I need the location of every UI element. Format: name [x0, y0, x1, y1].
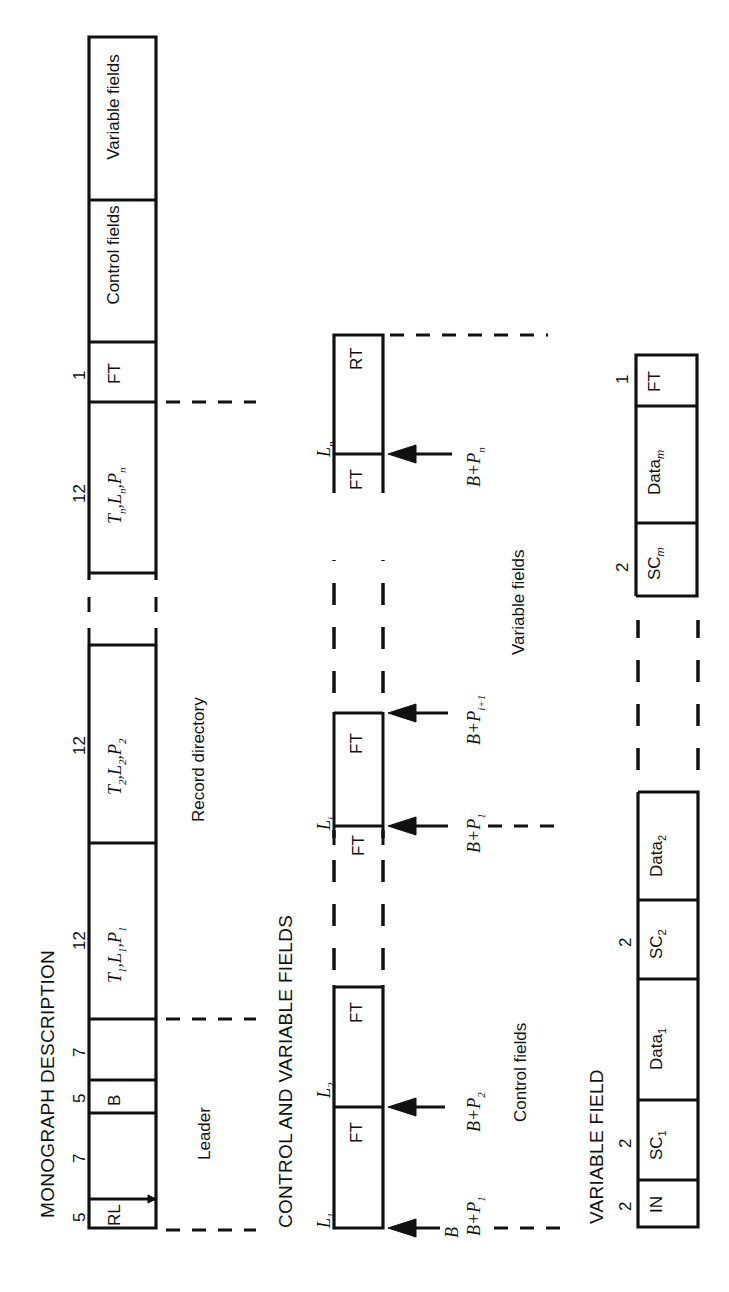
pointer-b-p2: B+P2	[465, 1092, 487, 1132]
pointer-b-p1-start: B+P1	[465, 1196, 487, 1236]
leader-label: Leader	[196, 1107, 213, 1160]
size-b: 5	[71, 1094, 88, 1103]
cell-rt: RT	[348, 348, 365, 370]
size-ft: 1	[71, 371, 88, 380]
arrow-bpn-icon	[388, 445, 416, 463]
arrow-bp2-icon	[388, 1098, 416, 1116]
pointer-b-p1: B+P1	[465, 813, 487, 853]
size-gap2: 7	[71, 1048, 88, 1057]
size-rl: 5	[71, 1213, 88, 1222]
segment-entryn: Tn,Ln,Pn	[106, 467, 128, 524]
pointer-b: B	[443, 1227, 461, 1238]
pointer-b-pn: B+Pn	[465, 447, 487, 487]
length-l2: L2	[315, 1082, 337, 1098]
size-sc2: 2	[617, 938, 634, 947]
segment-in: IN	[648, 1196, 665, 1213]
cell-ft-3: FT	[350, 835, 367, 856]
size-entryn: 12	[71, 484, 88, 503]
pointer-arrows	[388, 445, 452, 1237]
segment-ft: FT	[106, 363, 123, 384]
size-gap1: 7	[71, 1154, 88, 1163]
control-fields-label: Control fields	[512, 1023, 529, 1122]
cell-ft-1: FT	[348, 1122, 365, 1143]
segment-entry2: T2,L2,P2	[106, 738, 128, 795]
segment-variable-fields: Variable fields	[104, 52, 124, 162]
size-scm: 2	[614, 563, 631, 572]
segment-ft-end: FT	[646, 371, 663, 392]
segment-datam: Datam	[646, 450, 666, 495]
segment-b: B	[106, 1095, 123, 1106]
segment-rl: RL	[106, 1204, 123, 1226]
size-entry2: 12	[71, 736, 88, 755]
size-ft-end: 1	[614, 375, 631, 384]
variable-fields-label: Variable fields	[510, 549, 527, 655]
segment-data1: Data1	[648, 1028, 668, 1070]
arrow-b-icon	[388, 1219, 416, 1237]
segment-control-fields: Control fields	[104, 200, 124, 310]
control-variable-title: CONTROL AND VARIABLE FIELDS	[276, 915, 295, 1228]
monograph-title: MONOGRAPH DESCRIPTION	[38, 950, 57, 1218]
length-l1: L1	[315, 1212, 337, 1228]
cell-ft-5: FT	[348, 469, 365, 490]
variable-field-title: VARIABLE FIELD	[587, 1069, 606, 1224]
segment-scm: SCm	[646, 547, 666, 580]
size-sc1: 2	[617, 1139, 634, 1148]
length-li: Li	[315, 817, 337, 830]
cell-ft-4: FT	[348, 733, 365, 754]
arrow-bp1-icon	[388, 817, 416, 835]
length-ln: Ln	[315, 441, 337, 457]
segment-sc1: SC1	[648, 1130, 668, 1160]
segment-entry1: T1,L1,P1	[106, 926, 128, 983]
segment-sc2: SC2	[648, 929, 668, 959]
arrow-bpi1-icon	[388, 704, 416, 722]
record-directory-label: Record directory	[190, 697, 207, 822]
size-in: 2	[617, 1202, 634, 1211]
cell-ft-2: FT	[348, 1002, 365, 1023]
segment-data2: Data2	[648, 835, 668, 877]
size-entry1: 12	[71, 931, 88, 950]
pointer-b-pi1: B+Pi+1	[465, 695, 487, 745]
